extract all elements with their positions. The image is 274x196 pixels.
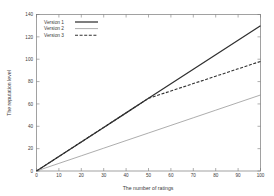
line-chart: 020406080100120140 010203040506070809010… [0,0,274,196]
y-tick-label: 40 [28,124,34,129]
x-tick-label: 10 [56,173,62,178]
legend-label-2: Version 2 [44,26,64,31]
chart-container: 020406080100120140 010203040506070809010… [0,0,274,196]
x-tick-label: 50 [146,173,152,178]
x-tick-label: 0 [35,173,38,178]
y-tick-label: 0 [30,169,33,174]
x-tick-label: 20 [79,173,85,178]
x-axis-title: The number of ratings [123,185,174,191]
x-tick-label: 100 [257,173,265,178]
y-axis-title: The reputation level [6,70,12,116]
legend-label-3: Version 3 [44,33,64,38]
x-tick-label: 30 [101,173,107,178]
y-tick-label: 120 [25,35,33,40]
legend-label-1: Version 1 [44,20,64,25]
x-tick-label: 80 [213,173,219,178]
x-tick-label: 60 [168,173,174,178]
x-tick-label: 70 [191,173,197,178]
y-tick-label: 20 [28,146,34,151]
x-tick-label: 90 [236,173,242,178]
chart-background [0,0,274,196]
y-tick-label: 60 [28,102,34,107]
x-tick-label: 40 [124,173,130,178]
y-tick-label: 100 [25,57,33,62]
y-tick-label: 80 [28,79,34,84]
y-tick-label: 140 [25,12,33,17]
